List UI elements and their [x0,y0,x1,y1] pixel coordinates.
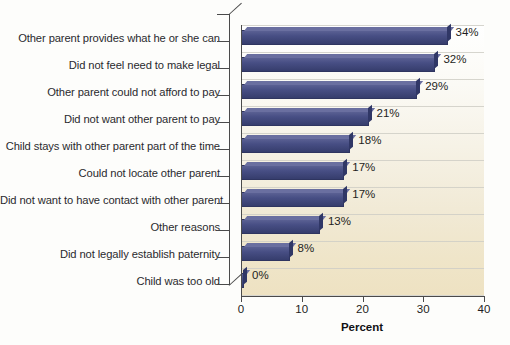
y-axis-tick [217,122,229,123]
bar-value-label: 29% [425,80,448,92]
plot-area: 34%32%29%21%18%17%17%13%8%0% [241,25,484,295]
bar [241,57,435,72]
y-axis-tick [217,68,229,69]
bar-row: 17% [241,187,484,214]
category-label: Did not want to have contact with other … [0,187,228,214]
category-label: Could not locate other parent [0,160,228,187]
bar-side-face [343,186,347,204]
axis-skew-top [229,3,242,15]
bar-value-label: 21% [377,107,400,119]
y-axis-tick [217,176,229,177]
x-axis-tick [423,296,424,302]
bar [241,30,448,45]
bar-top-face [244,243,296,247]
y-axis-tick [217,41,229,42]
bar-row: 29% [241,79,484,106]
category-label: Did not feel need to make legal [0,52,228,79]
category-axis-labels: Other parent provides what he or she can… [0,25,228,295]
bar-side-face [343,159,347,177]
bar-side-face [349,132,353,150]
x-axis-tick-label: 0 [238,303,244,315]
bar-row: 0% [241,268,484,295]
bar-value-label: 34% [456,26,479,38]
bar [241,111,369,126]
bar-row: 17% [241,160,484,187]
bar-top-face [244,108,375,112]
category-label: Other parent could not afford to pay [0,79,228,106]
bar-value-label: 18% [358,134,381,146]
bar-value-label: 0% [252,269,269,281]
bar-row: 13% [241,214,484,241]
x-axis-tick [363,296,364,302]
bar [241,138,350,153]
bar-side-face [434,51,438,69]
x-axis-title: Percent [0,321,510,333]
bar-row: 8% [241,241,484,268]
x-axis-title-text: Percent [341,321,383,333]
y-axis-tick [217,257,229,258]
category-label: Child was too old [0,268,228,295]
category-label: Other parent provides what he or she can [0,25,228,52]
y-axis-back-line [229,14,230,285]
bar-row: 21% [241,106,484,133]
bar-value-label: 17% [352,161,375,173]
x-axis-tick-label: 10 [295,303,308,315]
bar-top-face [244,81,423,85]
bar-top-face [244,189,350,193]
bar-row: 32% [241,52,484,79]
bar-value-label: 13% [328,215,351,227]
bar-series: 34%32%29%21%18%17%17%13%8%0% [241,25,484,295]
bar-top-face [244,27,454,31]
axis-skew-bottom [229,274,242,286]
y-axis-tick [217,284,229,285]
y-axis-tick [217,14,229,15]
bar [241,219,320,234]
bar-side-face [289,240,293,258]
x-axis-tick [484,296,485,302]
bar [241,246,290,261]
x-axis-tick-label: 20 [356,303,369,315]
x-axis-tick [302,296,303,302]
bar-value-label: 8% [298,242,315,254]
category-label: Other reasons [0,214,228,241]
x-axis-tick-label: 40 [478,303,491,315]
horizontal-bar-chart: Other parent provides what he or she can… [0,0,510,345]
y-axis-tick [217,203,229,204]
bar-row: 18% [241,133,484,160]
x-axis-tick-label: 30 [417,303,430,315]
bar-top-face [244,216,326,220]
bar-value-label: 17% [352,188,375,200]
x-axis-tick [241,296,242,302]
bar-side-face [447,24,451,42]
bar-side-face [416,78,420,96]
category-label: Did not legally establish paternity [0,241,228,268]
y-axis-tick [217,95,229,96]
bar-top-face [244,135,356,139]
y-axis-tick [217,230,229,231]
bar-value-label: 32% [443,53,466,65]
bar [241,192,344,207]
bar-top-face [244,162,350,166]
bar-row: 34% [241,25,484,52]
bar [241,84,417,99]
y-axis-line [241,25,242,296]
category-label: Child stays with other parent part of th… [0,133,228,160]
bar [241,165,344,180]
category-label: Did not want other parent to pay [0,106,228,133]
bar-side-face [243,267,247,285]
y-axis-tick [217,149,229,150]
bar-top-face [244,54,442,58]
bar-side-face [319,213,323,231]
bar-side-face [368,105,372,123]
